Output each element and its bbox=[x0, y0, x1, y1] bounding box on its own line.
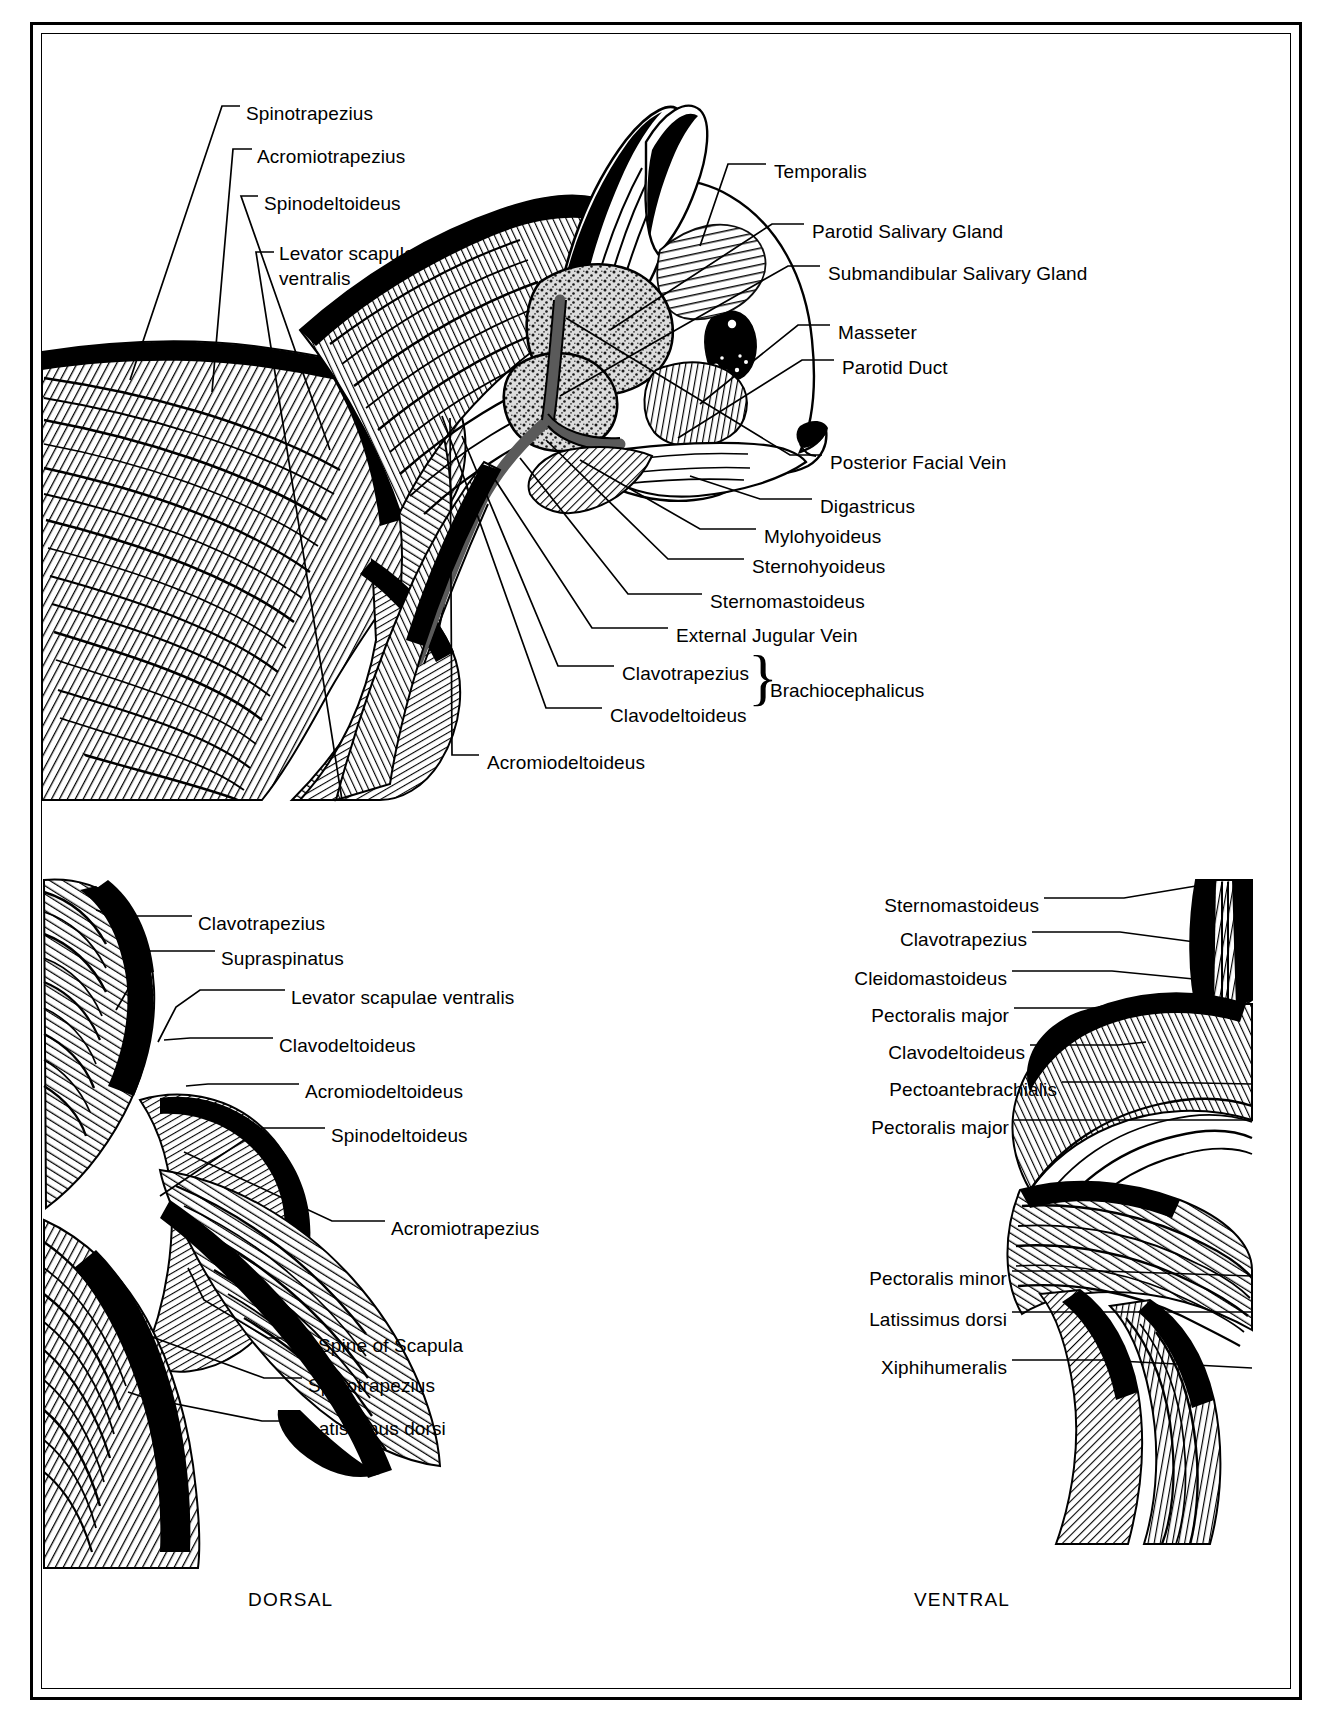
figure-page: Spinotrapezius Acromiotrapezius Spinodel… bbox=[0, 0, 1338, 1727]
ventral-panel-caption: VENTRAL bbox=[914, 1589, 1010, 1611]
lateral-label-brachiocephalicus: Brachiocephalicus bbox=[770, 680, 924, 702]
dorsal-panel-caption: DORSAL bbox=[248, 1589, 333, 1611]
inner-border bbox=[41, 33, 1291, 1689]
